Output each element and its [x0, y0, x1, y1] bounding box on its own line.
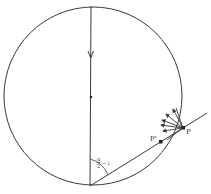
oblique-line [90, 113, 207, 186]
angle-label-numerator: π [97, 156, 101, 162]
point-p-label: P [186, 128, 191, 136]
center-dot [90, 96, 93, 99]
circle-outline [4, 7, 182, 185]
point-p-prime-label: P' [150, 135, 157, 143]
point-p-prime-marker [159, 140, 163, 144]
diagram-canvas: π 2 − i P' P [0, 0, 211, 194]
angle-label-denominator: 2 [97, 163, 100, 169]
angle-label-suffix: − i [102, 160, 110, 166]
